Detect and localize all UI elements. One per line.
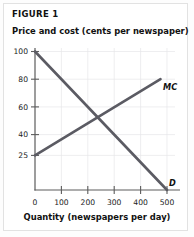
xtick-label: 300 bbox=[107, 198, 122, 207]
chart-plot-area: 100 80 60 40 25 0 100 200 300 400 500 MC… bbox=[0, 0, 194, 237]
series-label-d: D bbox=[169, 178, 176, 188]
figure-panel: FIGURE 1 Price and cost (cents per newsp… bbox=[0, 0, 194, 237]
x-axis-title: Quantity (newspapers per day) bbox=[0, 212, 194, 222]
ytick-label: 25 bbox=[18, 151, 28, 160]
x-axis-tick-labels: 0 100 200 300 400 500 bbox=[33, 198, 175, 207]
ytick-label: 60 bbox=[18, 103, 28, 112]
ytick-label: 80 bbox=[18, 75, 28, 84]
xtick-label: 0 bbox=[33, 198, 38, 207]
vertical-gridlines bbox=[61, 48, 167, 190]
y-axis-tick-labels: 100 80 60 40 25 bbox=[14, 47, 29, 160]
xtick-label: 500 bbox=[160, 198, 175, 207]
axis-lines bbox=[34, 48, 180, 191]
ytick-label: 100 bbox=[14, 47, 29, 56]
xtick-label: 200 bbox=[81, 198, 96, 207]
xtick-label: 400 bbox=[133, 198, 148, 207]
xtick-label: 100 bbox=[54, 198, 69, 207]
marginal-cost-curve-line bbox=[35, 79, 161, 155]
horizontal-gridlines bbox=[35, 52, 175, 156]
ytick-label: 40 bbox=[18, 130, 28, 139]
series-label-mc: MC bbox=[163, 82, 177, 92]
demand-curve-line bbox=[35, 52, 167, 191]
